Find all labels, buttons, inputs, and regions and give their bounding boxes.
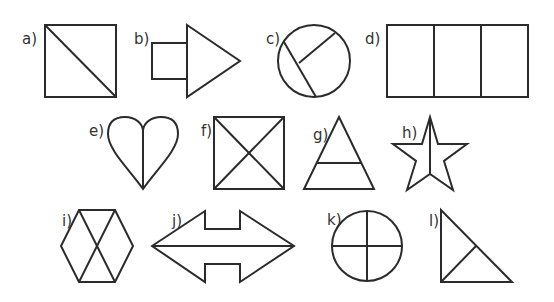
shape-d-label: d) <box>365 30 380 48</box>
shape-c-label: c) <box>266 30 280 48</box>
shape-g: g) <box>304 117 374 189</box>
chord-line <box>284 42 316 97</box>
shape-j: j) <box>152 211 294 282</box>
shape-d: d) <box>365 25 528 97</box>
small-square-outline <box>152 43 187 79</box>
shape-c: c) <box>266 25 350 97</box>
shape-e: e) <box>89 117 178 189</box>
shape-k-label: k) <box>327 211 342 229</box>
shape-g-label: g) <box>313 126 328 144</box>
triangle-outline <box>187 25 240 97</box>
shape-l: l) <box>429 210 512 282</box>
rectangle-outline <box>387 25 528 97</box>
shape-b: b) <box>134 25 240 97</box>
shape-i: i) <box>61 210 133 282</box>
median-line <box>441 246 476 282</box>
shape-h: h) <box>393 117 467 190</box>
shape-b-label: b) <box>134 30 149 48</box>
shape-f-label: f) <box>201 122 212 140</box>
diagonal-line <box>45 25 116 97</box>
shape-h-label: h) <box>402 124 417 142</box>
radius-line <box>299 33 335 63</box>
shape-a-label: a) <box>22 30 37 48</box>
shape-k: k) <box>327 211 402 281</box>
shape-f: f) <box>201 117 284 189</box>
shape-e-label: e) <box>89 122 104 140</box>
shapes-diagram: a) b) c) d) e) f) g) <box>0 0 554 302</box>
shape-a: a) <box>22 25 116 97</box>
circle-outline <box>278 25 350 97</box>
shape-l-label: l) <box>429 212 439 230</box>
